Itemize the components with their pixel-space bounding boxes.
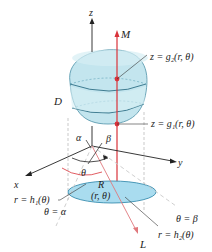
z-axis-label: z	[88, 7, 93, 18]
label-D: D	[53, 95, 62, 107]
label-ray-beta: θ = β	[176, 213, 198, 224]
label-L: L	[139, 238, 146, 250]
cylindrical-region-diagram: z M x y L α β θ D R (r, θ) z =	[0, 0, 212, 252]
label-beta: β	[105, 133, 111, 144]
leader-outer-curve	[125, 197, 158, 226]
label-point: (r, θ)	[91, 190, 111, 202]
label-alpha: α	[76, 132, 82, 143]
label-inner-curve: r = h₁(θ)	[14, 194, 50, 206]
label-ray-alpha: θ = α	[44, 206, 67, 217]
x-axis-label: x	[13, 179, 19, 190]
solid-D	[70, 50, 148, 124]
y-axis-label: y	[177, 157, 183, 168]
label-lower-surface: z = g₁(r, θ)	[150, 118, 195, 130]
label-theta: θ	[81, 167, 86, 178]
label-R: R	[97, 179, 104, 190]
label-upper-surface: z = g₂(r, θ)	[149, 51, 194, 63]
label-M: M	[120, 28, 131, 40]
label-outer-curve: r = h₂(θ)	[158, 229, 194, 241]
